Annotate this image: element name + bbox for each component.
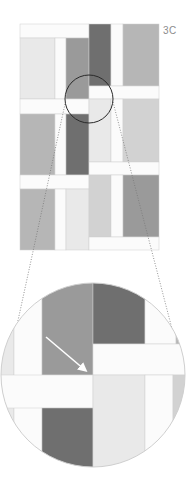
pattern-block xyxy=(123,175,159,237)
pattern-block xyxy=(123,24,159,86)
pattern-block xyxy=(89,24,111,86)
pattern-block xyxy=(55,189,66,250)
magnified-block xyxy=(93,344,186,375)
pattern-block xyxy=(55,38,66,99)
pattern-block xyxy=(55,114,66,175)
pattern-block xyxy=(111,99,123,162)
pattern-block xyxy=(111,175,123,237)
pattern-block xyxy=(20,114,55,175)
figure-label: 3C xyxy=(163,25,177,36)
pattern-block xyxy=(123,99,159,162)
pattern-block xyxy=(20,175,89,189)
magnified-block xyxy=(145,375,173,483)
magnified-block xyxy=(176,280,186,344)
magnified-block xyxy=(42,408,93,483)
pattern-block xyxy=(20,99,89,114)
pattern-block xyxy=(89,86,159,99)
pattern-block xyxy=(89,162,159,175)
pattern-block xyxy=(89,175,111,237)
pattern-block xyxy=(66,189,89,250)
pattern-block xyxy=(89,99,111,162)
pattern-block xyxy=(111,24,123,86)
pattern-block xyxy=(20,24,89,38)
pattern-block xyxy=(89,237,159,250)
pattern-block xyxy=(20,38,55,99)
magnified-block xyxy=(93,280,145,344)
woven-pattern-diagram xyxy=(0,0,186,483)
pattern-block xyxy=(66,38,89,99)
magnified-block xyxy=(0,375,93,408)
pattern-block xyxy=(20,189,55,250)
